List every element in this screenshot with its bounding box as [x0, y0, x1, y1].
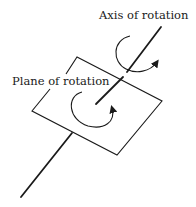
axis-of-rotation: [21, 27, 161, 197]
axis-label: Axis of rotation: [98, 8, 189, 22]
rotation-diagram: Axis of rotation Plane of rotation: [0, 0, 196, 207]
plane-rotation-arrow-icon: [71, 92, 112, 127]
plane-label: Plane of rotation: [12, 74, 110, 88]
